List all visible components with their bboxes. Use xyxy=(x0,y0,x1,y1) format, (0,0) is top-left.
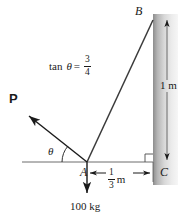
right-angle-marker xyxy=(145,154,153,162)
label-point-b: B xyxy=(135,5,142,17)
dimension-numerator: 1 xyxy=(108,168,115,179)
label-point-c: C xyxy=(160,166,168,178)
dimension-denominator: 3 xyxy=(108,179,115,191)
equation-denominator: 4 xyxy=(84,66,91,78)
force-p-arrow xyxy=(29,116,87,162)
wall-block xyxy=(153,14,178,185)
equation-fraction: 3 4 xyxy=(84,55,91,77)
label-point-a: A xyxy=(80,166,87,178)
statics-diagram-figure: B A C P θ tan θ = 3 4 1 3 m 1 m 100 kg xyxy=(0,0,184,221)
dimension-fraction-horizontal: 1 3 xyxy=(108,168,115,190)
equation-tan-theta: tan θ = 3 4 xyxy=(49,55,91,77)
equation-theta-symbol: θ xyxy=(64,61,71,72)
dimension-label-vertical: 1 m xyxy=(160,80,177,91)
equation-numerator: 3 xyxy=(84,55,91,66)
equation-lhs: tan xyxy=(49,61,62,72)
equation-equals: = xyxy=(74,61,80,72)
dimension-label-horizontal: 1 3 m xyxy=(106,168,125,190)
member-ab xyxy=(87,20,153,162)
diagram-canvas xyxy=(0,0,184,221)
angle-theta-arc xyxy=(62,146,68,162)
dimension-unit-horizontal: m xyxy=(117,174,126,185)
label-angle-theta: θ xyxy=(48,146,53,157)
label-force-p: P xyxy=(9,92,18,105)
label-load-weight: 100 kg xyxy=(70,201,100,212)
